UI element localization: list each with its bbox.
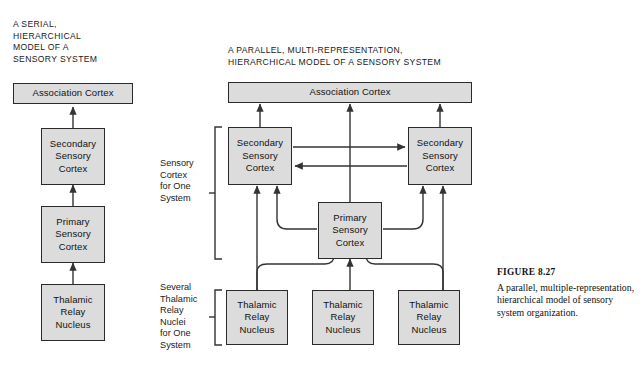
parallel-association-cortex-box[interactable]: Association Cortex <box>228 82 472 103</box>
bracket-label-sensory-cortex: Sensory Cortex for One System <box>160 158 210 204</box>
figure-caption: FIGURE 8.27 A parallel, multiple-represe… <box>497 267 637 319</box>
serial-thalamic-relay-nucleus-box[interactable]: Thalamic Relay Nucleus <box>41 284 105 341</box>
parallel-thalamic-1-box[interactable]: Thalamic Relay Nucleus <box>226 290 288 345</box>
figure-caption-text: A parallel, multiple-representation, hie… <box>497 282 637 319</box>
serial-model-title: A SERIAL, HIERARCHICAL MODEL OF A SENSOR… <box>13 19 153 65</box>
figure-number: FIGURE 8.27 <box>497 267 637 277</box>
arrow-primary-to-secondary-left <box>277 186 317 229</box>
serial-thalamic-relay-nucleus-label: Thalamic Relay Nucleus <box>53 294 92 332</box>
parallel-secondary-left-box[interactable]: Secondary Sensory Cortex <box>228 127 292 185</box>
serial-secondary-sensory-cortex-box[interactable]: Secondary Sensory Cortex <box>41 128 105 185</box>
parallel-primary-label: Primary Sensory Cortex <box>332 212 368 250</box>
parallel-secondary-right-box[interactable]: Secondary Sensory Cortex <box>408 127 472 185</box>
serial-association-cortex-label: Association Cortex <box>32 87 113 100</box>
parallel-thalamic-2-label: Thalamic Relay Nucleus <box>323 299 362 337</box>
arrow-primary-to-secondary-right <box>383 186 423 229</box>
parallel-thalamic-3-label: Thalamic Relay Nucleus <box>409 299 448 337</box>
serial-association-cortex-box[interactable]: Association Cortex <box>13 83 133 104</box>
serial-primary-sensory-cortex-label: Primary Sensory Cortex <box>55 216 91 254</box>
parallel-primary-box[interactable]: Primary Sensory Cortex <box>318 202 382 259</box>
parallel-model-title: A PARALLEL, MULTI-REPRESENTATION, HIERAR… <box>228 45 508 68</box>
bracket-sensory-cortex <box>215 127 222 259</box>
bracket-thalamic-nuclei <box>215 290 222 345</box>
bracket-label-thalamic-nuclei: Several Thalamic Relay Nuclei for One Sy… <box>160 282 210 352</box>
figure-canvas: A SERIAL, HIERARCHICAL MODEL OF A SENSOR… <box>0 0 644 375</box>
parallel-association-cortex-label: Association Cortex <box>309 86 390 99</box>
parallel-secondary-left-label: Secondary Sensory Cortex <box>237 137 283 175</box>
arrow-thalamic1-to-primary <box>257 255 334 290</box>
parallel-thalamic-1-label: Thalamic Relay Nucleus <box>237 299 276 337</box>
parallel-thalamic-3-box[interactable]: Thalamic Relay Nucleus <box>398 290 460 345</box>
parallel-secondary-right-label: Secondary Sensory Cortex <box>417 137 463 175</box>
serial-primary-sensory-cortex-box[interactable]: Primary Sensory Cortex <box>41 206 105 263</box>
arrow-thalamic3-to-primary <box>366 255 443 290</box>
parallel-thalamic-2-box[interactable]: Thalamic Relay Nucleus <box>312 290 374 345</box>
serial-secondary-sensory-cortex-label: Secondary Sensory Cortex <box>50 138 96 176</box>
